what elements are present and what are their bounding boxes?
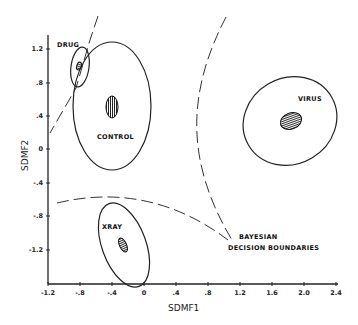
x-tick-label: 1.2 — [234, 289, 246, 297]
x-axis-title: SDMF1 — [168, 303, 199, 313]
boundary-drug-control — [50, 16, 98, 133]
x-tick-label: 2.4 — [330, 289, 342, 297]
y-axis-title: SDMF2 — [20, 140, 30, 171]
class-virus: VIRUS — [227, 60, 353, 182]
x-tick-label: .8 — [205, 289, 212, 297]
y-tick-label: 0 — [38, 145, 43, 153]
annotation-bayesian: BAYESIAN — [239, 233, 277, 241]
control-inner-ellipse — [106, 96, 118, 118]
x-tick-label: 2.0 — [298, 289, 310, 297]
xray-inner-ellipse — [117, 237, 130, 254]
class-xray: XRAY — [88, 196, 159, 294]
virus-label: VIRUS — [298, 95, 322, 103]
control-label: CONTROL — [97, 133, 134, 141]
drug-label: DRUG — [57, 41, 79, 49]
xray-label: XRAY — [102, 223, 122, 231]
class-drug: DRUG — [57, 41, 92, 88]
y-tick-label: -.8 — [33, 212, 43, 220]
x-tick-label: .4 — [173, 289, 180, 297]
discriminant-plot: -1.2 -.8 -.4 0 .4 .8 1.2 1.6 2.0 2.4 1.2… — [0, 0, 358, 325]
x-tick-label: 0 — [142, 289, 147, 297]
class-control: CONTROL — [73, 42, 151, 170]
x-tick-label: 1.6 — [266, 289, 278, 297]
y-tick-labels: 1.2 .8 .4 0 -.4 -.8 -1.2 — [29, 45, 44, 254]
virus-inner-ellipse — [278, 110, 304, 133]
x-tick-label: -.4 — [107, 289, 117, 297]
y-tick-label: -1.2 — [29, 246, 43, 254]
y-tick-label: -.4 — [33, 179, 43, 187]
annotation-decision-boundaries: DECISION BOUNDARIES — [228, 244, 319, 252]
x-tick-labels: -1.2 -.8 -.4 0 .4 .8 1.2 1.6 2.0 2.4 — [41, 289, 342, 297]
y-tick-label: .8 — [36, 79, 43, 87]
y-tick-label: 1.2 — [31, 45, 43, 53]
x-tick-label: -1.2 — [41, 289, 55, 297]
x-tick-label: -.8 — [75, 289, 85, 297]
y-tick-label: .4 — [36, 112, 43, 120]
boundary-virus — [197, 17, 232, 240]
